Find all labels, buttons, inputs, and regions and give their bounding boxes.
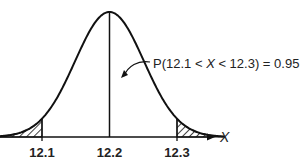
x-axis-label: X [219,129,230,145]
tick-label: 12.1 [29,145,54,160]
annotation-prefix: P(12.1 < [153,56,206,71]
normal-distribution-diagram: X 12.112.212.3 P(12.1 < X < 12.3) = 0.95 [0,0,301,164]
bell-curve [0,12,224,137]
left-tail-shading [0,119,42,137]
probability-annotation: P(12.1 < X < 12.3) = 0.95 [153,56,299,71]
tick-label: 12.2 [97,145,122,160]
annotation-suffix: < 12.3) = 0.95 [215,56,300,71]
tick-label: 12.3 [164,145,189,160]
